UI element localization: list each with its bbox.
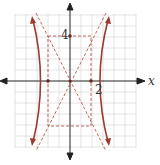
x-axis-label: x [148,74,155,88]
tick-label-2: 2 [95,83,103,97]
hyperbola-graph: 4 2 x [0,0,160,165]
tick-label-4: 4 [61,28,69,42]
axes [0,3,145,160]
